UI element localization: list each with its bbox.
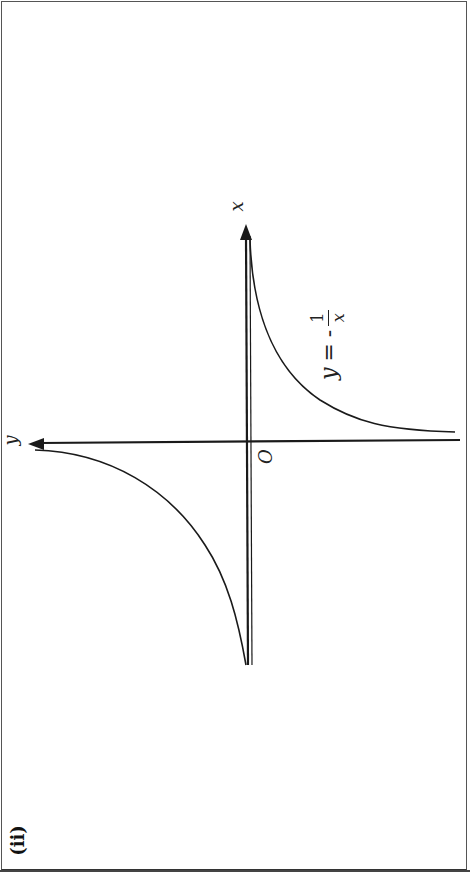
equation-equals: = (316, 343, 341, 361)
x-axis-label: x (226, 201, 247, 211)
y-axis-label: y (0, 435, 21, 445)
y-axis (28, 438, 460, 450)
equation-denominator: x (331, 313, 347, 322)
part-label: (ii) (7, 825, 28, 856)
equation-neg: - (316, 330, 341, 337)
equation-fraction: 1 x (310, 310, 347, 326)
curve-branch-negative-x (35, 450, 246, 665)
origin-label: O (255, 449, 276, 464)
equation-numerator: 1 (310, 313, 326, 323)
x-axis (240, 224, 252, 665)
x-axis-arrowhead-icon (240, 224, 252, 240)
equation-lhs: y (316, 368, 341, 380)
curve-branch-positive-x (250, 240, 455, 432)
y-axis-arrowhead-icon (28, 438, 44, 450)
graph-canvas (0, 0, 472, 886)
equation-label: y = - 1 x (308, 260, 348, 380)
